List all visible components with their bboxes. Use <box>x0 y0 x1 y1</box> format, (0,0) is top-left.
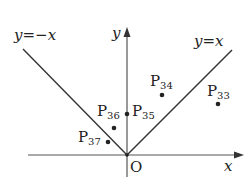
origin-label: O <box>130 160 142 175</box>
point-p36 <box>112 126 117 131</box>
point-p37 <box>106 140 111 145</box>
label-y-equals-x: y=x <box>194 34 224 49</box>
x-axis-label: x <box>224 159 232 174</box>
label-p37: P37 <box>78 130 101 147</box>
point-p34 <box>160 93 165 98</box>
point-p35 <box>125 112 130 117</box>
label-p36: P36 <box>97 104 120 121</box>
point-p33 <box>216 102 221 107</box>
line-y-equals-neg-x <box>23 49 127 155</box>
coordinate-diagram: y=−x y=x y x O P34 P33 P36 P35 P37 <box>0 0 251 181</box>
label-p35: P35 <box>132 104 155 121</box>
origin-point <box>125 153 129 157</box>
y-axis-label: y <box>112 26 120 41</box>
line-y-equals-x <box>127 50 232 155</box>
label-p33: P33 <box>207 84 230 101</box>
label-p34: P34 <box>150 74 173 91</box>
label-y-equals-neg-x: y=−x <box>14 28 56 43</box>
y-axis-arrow-icon <box>124 27 131 37</box>
x-axis-arrow-icon <box>234 152 244 159</box>
